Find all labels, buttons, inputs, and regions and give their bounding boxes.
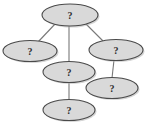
node-n1[interactable]: ? xyxy=(42,4,100,28)
node-n6[interactable]: ? xyxy=(43,100,97,123)
node-n1-label: ? xyxy=(68,10,73,21)
node-n2-label: ? xyxy=(28,46,33,57)
node-n2[interactable]: ? xyxy=(3,41,59,64)
node-n4[interactable]: ? xyxy=(43,62,97,85)
node-link-diagram: ? ? ? ? ? xyxy=(0,0,146,126)
node-n3-label: ? xyxy=(114,45,119,56)
edge-n1-n2 xyxy=(38,23,56,42)
diagram-canvas: ? ? ? ? ? xyxy=(0,0,146,126)
edge-n3-n5 xyxy=(112,60,114,78)
node-n4-label: ? xyxy=(67,67,72,78)
node-n5-label: ? xyxy=(110,83,115,94)
node-n6-label: ? xyxy=(67,105,72,116)
edge-n1-n3 xyxy=(85,23,103,41)
node-n3[interactable]: ? xyxy=(89,40,145,63)
node-group: ? ? ? ? ? xyxy=(3,4,145,122)
node-n5[interactable]: ? xyxy=(86,78,140,101)
